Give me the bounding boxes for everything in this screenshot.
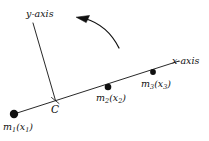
y-axis-label-suffix: -axis <box>31 8 53 19</box>
mass-label-m2: m2(x2) <box>96 93 126 104</box>
mass-label-m2-close-paren: ) <box>122 92 126 103</box>
origin-label: C <box>51 104 59 115</box>
figure-canvas: y-axis x-axis C m1(x1) m2(x2) m3(x3) <box>0 0 209 141</box>
x-axis-label: x-axis <box>172 56 199 66</box>
mass-label-m1-close-paren: ) <box>29 121 33 132</box>
mass-label-m1-symbol: m <box>3 121 12 132</box>
diagram-svg <box>0 0 209 141</box>
mass-label-m2-symbol: m <box>96 92 105 103</box>
mass-point-m1 <box>10 110 18 118</box>
y-axis-line <box>33 23 56 101</box>
y-axis-label: y-axis <box>26 9 54 19</box>
mass-label-m3: m3(x3) <box>141 79 171 90</box>
mass-label-m3-close-paren: ) <box>167 78 171 89</box>
mass-label-m1: m1(x1) <box>3 122 33 133</box>
rotation-arrow-arc <box>85 19 119 49</box>
mass-point-m2 <box>105 84 112 91</box>
rotation-arrow-head <box>76 16 89 23</box>
mass-point-m3 <box>150 69 156 75</box>
x-axis-label-suffix: -axis <box>177 55 199 66</box>
mass-label-m3-symbol: m <box>141 78 150 89</box>
